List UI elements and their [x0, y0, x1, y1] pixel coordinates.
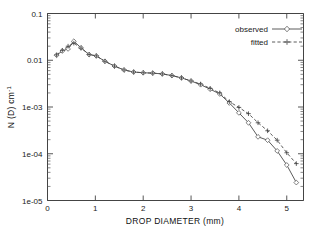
chart-canvas: 0.10.011e-031e-041e-05 012345 observed f… [0, 0, 325, 234]
data-point-fitted [189, 79, 194, 84]
data-point-observed [294, 180, 299, 185]
legend-label-fitted: fitted [251, 38, 268, 47]
chart-figure: 0.10.011e-031e-041e-05 012345 observed f… [0, 0, 325, 234]
x-tick-label: 5 [285, 204, 290, 213]
data-series-layer [54, 39, 299, 185]
series-markers-observed [54, 39, 299, 185]
x-tick-label: 1 [93, 204, 98, 213]
x-tick-label: 2 [141, 204, 146, 213]
y-tick-label: 1e-05 [22, 197, 43, 206]
y-axis-title: N (D) cm-1 [6, 85, 16, 128]
data-point-fitted [294, 161, 299, 166]
data-point-fitted [122, 68, 127, 73]
y-tick-label: 1e-04 [22, 150, 43, 159]
x-axis-title: DROP DIAMETER (mm) [126, 216, 224, 226]
x-axis-tick-labels: 012345 [45, 204, 289, 213]
legend: observed fitted [235, 25, 302, 47]
y-tick-label: 1e-03 [22, 103, 43, 112]
y-axis-title-group: N (D) cm-1 [6, 85, 16, 128]
legend-sample-observed [272, 26, 302, 32]
legend-diamond-icon [284, 26, 289, 32]
y-axis-tick-labels: 0.10.011e-031e-041e-05 [22, 10, 43, 206]
series-markers-fitted [54, 41, 298, 166]
data-point-fitted [103, 59, 108, 64]
legend-label-observed: observed [235, 25, 268, 34]
x-tick-label: 3 [189, 204, 194, 213]
y-tick-label: 0.1 [31, 10, 43, 19]
y-tick-label: 0.01 [27, 56, 43, 65]
data-point-fitted [94, 54, 99, 59]
data-point-fitted [150, 71, 155, 76]
data-point-fitted [246, 111, 251, 116]
data-point-fitted [179, 76, 184, 81]
data-point-fitted [237, 105, 242, 110]
data-point-fitted [112, 64, 117, 69]
data-point-fitted [265, 128, 270, 133]
data-point-fitted [131, 70, 136, 75]
data-point-fitted [170, 73, 175, 78]
data-point-fitted [141, 70, 146, 75]
x-tick-label: 4 [237, 204, 242, 213]
data-point-fitted [160, 72, 165, 77]
series-line-observed [57, 41, 297, 182]
legend-sample-fitted [272, 39, 302, 45]
legend-plus-icon [284, 39, 290, 45]
x-tick-label: 0 [45, 204, 50, 213]
series-line-fitted [57, 43, 297, 163]
